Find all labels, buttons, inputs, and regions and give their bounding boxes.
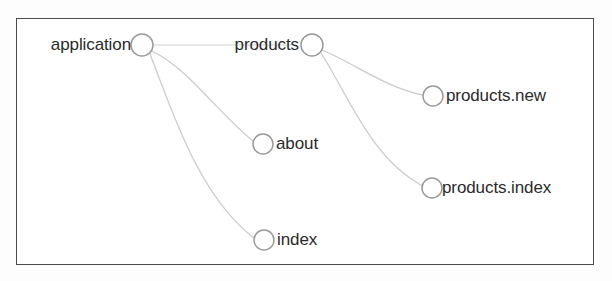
diagram-canvas: application products products.new about … bbox=[0, 0, 612, 281]
node-label-application: application bbox=[51, 36, 131, 53]
node-circle-index[interactable] bbox=[254, 230, 274, 250]
node-label-index: index bbox=[277, 231, 317, 248]
edge-products-products-index bbox=[321, 53, 423, 186]
node-circle-application[interactable] bbox=[131, 34, 153, 56]
node-circle-products-index[interactable] bbox=[422, 178, 442, 198]
node-circle-products-new[interactable] bbox=[423, 86, 443, 106]
node-label-products-new: products.new bbox=[446, 87, 546, 104]
node-circle-about[interactable] bbox=[253, 134, 273, 154]
node-label-products: products bbox=[235, 36, 299, 53]
node-label-products-index: products.index bbox=[442, 179, 551, 196]
node-label-about: about bbox=[276, 135, 318, 152]
edge-application-about bbox=[152, 51, 253, 141]
node-circle-products[interactable] bbox=[301, 34, 323, 56]
edge-application-index bbox=[150, 54, 254, 238]
edge-products-products-new bbox=[322, 50, 423, 95]
